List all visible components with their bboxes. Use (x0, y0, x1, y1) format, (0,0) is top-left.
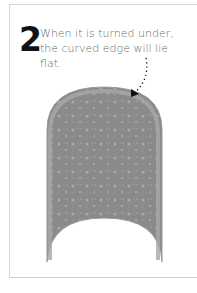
dotted-arrow-icon (131, 58, 147, 97)
fabric-panel (47, 87, 162, 262)
fabric-illustration (0, 0, 197, 293)
